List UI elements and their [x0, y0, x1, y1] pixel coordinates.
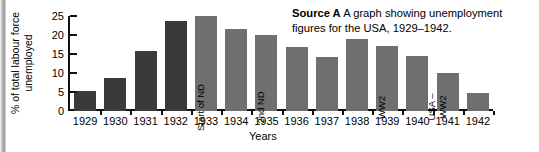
x-tick-label-1936: 1936 [284, 115, 308, 127]
bar-slot [130, 16, 160, 111]
x-tick-mark [100, 111, 102, 115]
y-tick-label: 25 [52, 10, 64, 22]
unemployment-bar-chart: % of total labour force unemployed 05101… [0, 0, 539, 152]
x-tick-mark [342, 111, 344, 115]
bar-slot: USA –WW2 [433, 16, 463, 111]
x-tick-mark [251, 111, 253, 115]
bar-1934[interactable] [225, 29, 247, 111]
x-tick-label-1942: 1942 [466, 115, 490, 127]
bar-slot: 2nd ND [251, 16, 281, 111]
bar-slot [342, 16, 372, 111]
x-tick-label-1934: 1934 [224, 115, 248, 127]
y-tick-mark [70, 72, 77, 74]
y-axis-title: % of total labour force unemployed [9, 3, 39, 123]
bar-slot [312, 16, 342, 111]
y-tick-mark [70, 15, 77, 17]
x-tick-label-1935: 1935 [254, 115, 278, 127]
bar-1933[interactable]: Start of ND [195, 16, 217, 111]
x-tick-label-1933: 1933 [194, 115, 218, 127]
bar-1932[interactable] [165, 21, 187, 111]
y-axis-tick-labels: 0510152025 [44, 0, 64, 152]
x-tick-mark [433, 111, 435, 115]
screenshot-root: Source A A graph showing unemployment fi… [0, 0, 539, 152]
bar-slot: WW2 [372, 16, 402, 111]
x-tick-label-1941: 1941 [435, 115, 459, 127]
bar-1929[interactable] [74, 91, 96, 111]
x-tick-mark [493, 111, 495, 115]
x-tick-mark [282, 111, 284, 115]
bar-1941[interactable]: USA –WW2 [437, 73, 459, 111]
bar-slot [70, 16, 100, 111]
x-tick-mark [191, 111, 193, 115]
bar-1937[interactable] [316, 57, 338, 111]
x-tick-label-1932: 1932 [164, 115, 188, 127]
y-tick-label: 15 [52, 48, 64, 60]
x-tick-mark [312, 111, 314, 115]
x-tick-label-1940: 1940 [405, 115, 429, 127]
bar-slot: Start of ND [191, 16, 221, 111]
x-axis-title: Years [249, 130, 277, 142]
x-tick-mark [402, 111, 404, 115]
y-axis-title-line-1: % of total labour force [9, 3, 22, 123]
x-tick-label-1937: 1937 [315, 115, 339, 127]
bar-slot [463, 16, 493, 111]
y-tick-mark [70, 91, 77, 93]
y-axis-title-line-2: unemployed [22, 3, 35, 123]
y-tick-mark [70, 53, 77, 55]
x-tick-mark [221, 111, 223, 115]
plot-area: Start of ND2nd NDWW2USA –WW2 [70, 16, 493, 111]
bar-slot [282, 16, 312, 111]
x-tick-label-1931: 1931 [133, 115, 157, 127]
y-tick-label: 20 [52, 29, 64, 41]
bar-slot [221, 16, 251, 111]
bar-1930[interactable] [104, 78, 126, 111]
y-tick-label: 10 [52, 67, 64, 79]
x-tick-mark [463, 111, 465, 115]
x-tick-mark [372, 111, 374, 115]
x-tick-mark [161, 111, 163, 115]
y-tick-label: 5 [58, 86, 64, 98]
y-tick-mark [70, 34, 77, 36]
bar-1939[interactable]: WW2 [376, 46, 398, 111]
x-tick-label-1929: 1929 [73, 115, 97, 127]
x-tick-label-1938: 1938 [345, 115, 369, 127]
bar-1938[interactable] [346, 39, 368, 111]
x-tick-label-1930: 1930 [103, 115, 127, 127]
x-tick-mark [130, 111, 132, 115]
bar-1936[interactable] [286, 47, 308, 111]
bar-1931[interactable] [135, 51, 157, 111]
bar-1942[interactable] [467, 93, 489, 111]
bar-slot [100, 16, 130, 111]
bar-slot [161, 16, 191, 111]
x-tick-label-1939: 1939 [375, 115, 399, 127]
y-tick-label: 0 [58, 105, 64, 117]
bar-1935[interactable]: 2nd ND [255, 35, 277, 111]
